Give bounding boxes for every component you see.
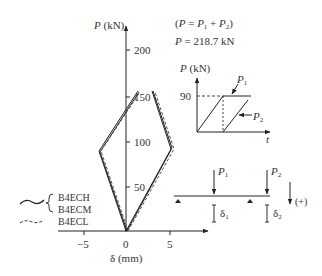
equations: (P = P1 + P2) P = 218.7 kN — [174, 17, 234, 47]
x-tick-5: 5 — [167, 238, 173, 250]
y-ticks: 200 150 100 50 — [126, 44, 151, 193]
sign-label: (+) — [295, 196, 307, 208]
curve-delta2 — [126, 91, 174, 231]
inset-p2-label: P2 — [252, 110, 264, 124]
delta2-marker: δ2 — [265, 205, 282, 222]
x-tick-neg5: −5 — [77, 238, 89, 250]
inset-p2-line — [223, 100, 248, 132]
x-axis-label: δ (mm) — [110, 252, 143, 265]
y-tick-200: 200 — [134, 44, 151, 56]
svg-text:δ2: δ2 — [273, 207, 282, 221]
support-right — [247, 199, 253, 203]
beam-p1-label: P1 — [217, 165, 229, 179]
x-ticks: −5 0 5 — [77, 231, 173, 250]
legend-item-b4ecl: B4ECL — [58, 216, 89, 227]
legend-solid-swatch — [20, 200, 44, 204]
legend-item-b4ecm: B4ECM — [58, 204, 91, 215]
legend: B4ECH B4ECM B4ECL — [20, 192, 91, 227]
x-tick-0: 0 — [123, 238, 129, 250]
equation-value: P = 218.7 kN — [174, 35, 234, 47]
delta1-marker: δ1 — [212, 205, 229, 222]
beam-schematic: P1 P2 δ1 δ2 (+) — [174, 165, 307, 222]
beam-p2-label: P2 — [270, 165, 282, 179]
inset-y-tick-90: 90 — [180, 90, 192, 102]
diagram-canvas: 200 150 100 50 −5 0 5 P (kN) δ (mm) — [0, 0, 322, 276]
y-tick-100: 100 — [134, 136, 151, 148]
inset-x-label: t — [266, 133, 270, 145]
equation-sum: (P = P1 + P2) — [175, 17, 233, 31]
curve-delta1 — [99, 91, 140, 231]
inset-load-history: P (kN) 90 P1 P2 t — [179, 62, 270, 145]
y-tick-50: 50 — [134, 181, 146, 193]
inset-p1-label: P1 — [236, 73, 248, 87]
inset-y-label: P (kN) — [179, 62, 211, 75]
legend-dashed-swatch — [20, 220, 44, 223]
svg-text:δ1: δ1 — [220, 207, 229, 221]
legend-brace — [46, 194, 53, 212]
inset-p1-line — [197, 96, 251, 132]
main-plot: 200 150 100 50 −5 0 5 P (kN) δ (mm) — [58, 19, 208, 265]
y-axis-label: P (kN) — [93, 19, 125, 32]
support-left — [175, 199, 181, 203]
legend-item-b4ech: B4ECH — [58, 192, 90, 203]
